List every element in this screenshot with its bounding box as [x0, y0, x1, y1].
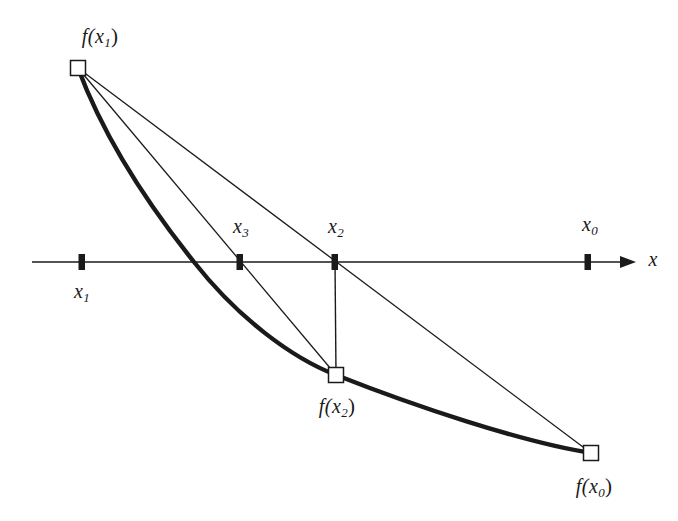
label-fx2-tail: ) — [348, 394, 355, 418]
tick-x3 — [237, 254, 244, 270]
point-marker-fx0 — [584, 446, 599, 461]
label-fx2: f(x2) — [319, 396, 356, 417]
label-fx0-tail: ) — [605, 474, 612, 498]
tick-x0 — [585, 254, 592, 270]
label-x-axis-text: x — [648, 248, 657, 270]
label-tick-x2-sub: 2 — [337, 225, 344, 240]
label-fx1: f(x1) — [82, 26, 119, 47]
label-fx0-f: f(x — [576, 475, 599, 497]
label-fx0: f(x0) — [576, 476, 613, 497]
label-fx0-sub: 0 — [598, 485, 605, 500]
ordinate-line-x2 — [335, 262, 336, 374]
label-tick-x3-sub: 3 — [242, 225, 249, 240]
label-tick-x3-var: x — [233, 215, 242, 237]
label-tick-x2: x2 — [328, 216, 344, 236]
tick-x1 — [79, 254, 86, 270]
label-x-axis: x — [648, 249, 657, 269]
label-tick-x1-sub: 1 — [83, 290, 90, 305]
label-tick-x1: x1 — [74, 281, 90, 301]
label-tick-x0-sub: 0 — [591, 223, 598, 238]
label-fx1-tail: ) — [111, 24, 118, 48]
label-fx2-sub: 2 — [341, 405, 348, 420]
label-fx1-sub: 1 — [104, 35, 111, 50]
secant-line-fx1-fx2 — [78, 68, 336, 375]
label-fx1-f: f(x — [82, 25, 105, 47]
point-marker-fx2 — [329, 368, 344, 383]
label-tick-x0-var: x — [582, 213, 591, 235]
label-tick-x1-var: x — [74, 280, 83, 302]
tick-x2 — [332, 254, 339, 270]
secant-method-diagram: f(x1) f(x2) f(x0) x1 x3 x2 x0 x — [0, 0, 678, 521]
label-fx2-f: f(x — [319, 395, 342, 417]
label-tick-x2-var: x — [328, 215, 337, 237]
label-tick-x0: x0 — [582, 214, 598, 234]
x-axis-arrowhead — [620, 256, 636, 268]
label-tick-x3: x3 — [233, 216, 249, 236]
diagram-canvas — [0, 0, 678, 521]
point-marker-fx1 — [71, 61, 86, 76]
